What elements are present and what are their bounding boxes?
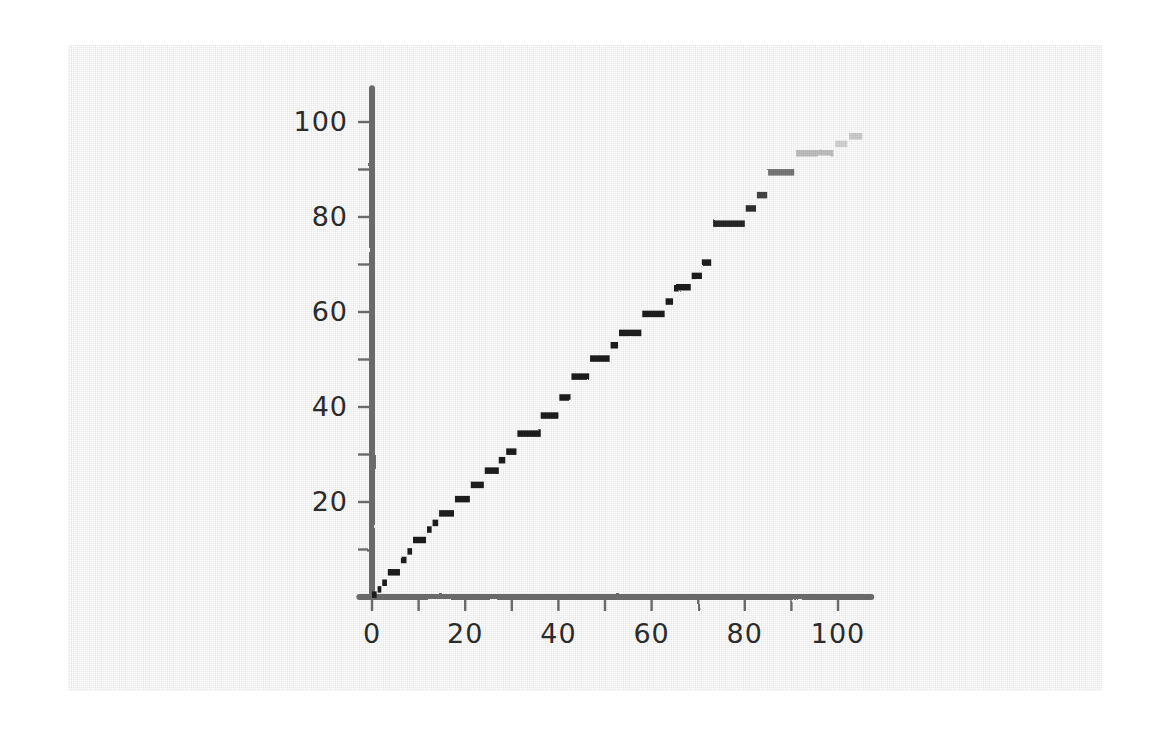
x-tick-label-20: 20: [447, 618, 483, 649]
x-tick-label-40: 40: [540, 618, 576, 649]
step-plot: 020406080100 20406080100: [0, 0, 1162, 738]
x-tick-label-60: 60: [633, 618, 669, 649]
y-tick-label-80: 80: [312, 201, 348, 232]
y-tick-label-40: 40: [312, 391, 348, 422]
y-tick-label-20: 20: [312, 486, 348, 517]
x-tick-label-100: 100: [811, 618, 866, 649]
x-axis-tick-labels: 020406080100: [363, 618, 865, 649]
x-tick-label-0: 0: [363, 618, 381, 649]
x-tick-label-80: 80: [727, 618, 763, 649]
figure-root: 020406080100 20406080100: [0, 0, 1162, 738]
axes-group: [358, 88, 871, 611]
data-series-step: [372, 136, 862, 594]
y-tick-label-60: 60: [312, 296, 348, 327]
y-axis-tick-labels: 20406080100: [293, 106, 348, 517]
y-tick-label-100: 100: [293, 106, 348, 137]
